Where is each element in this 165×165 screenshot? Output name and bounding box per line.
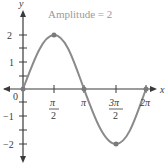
x-tick-2pi: 2π [140,97,151,108]
chart-title: Amplitude = 2 [48,8,112,20]
x-tick-pi-half-den: 2 [51,110,56,121]
sine-chart: Amplitude = 2 y x 0 2 1 −1 −2 π 2 π 3π 2… [0,0,165,165]
y-axis-down-arrow-icon [20,156,26,163]
x-tick-pi: π [81,97,87,108]
y-tick-m1: −1 [3,111,14,122]
x-axis-left-arrow-icon [3,86,10,92]
y-tick-1: 1 [9,57,14,68]
x-tick-pi-half-num: π [50,97,56,108]
x-axis-label: x [159,84,165,95]
y-tick-2: 2 [7,30,12,41]
x-tick-3pi-half-num: 3π [108,97,120,108]
y-axis-label: y [18,0,24,9]
y-tick-m2: −2 [3,139,14,150]
axes [4,12,155,160]
axis-arrows [3,10,157,163]
origin-label: 0 [13,91,18,102]
y-axis-up-arrow-icon [20,10,26,17]
x-axis-right-arrow-icon [150,86,157,92]
x-tick-3pi-half-den: 2 [113,110,118,121]
